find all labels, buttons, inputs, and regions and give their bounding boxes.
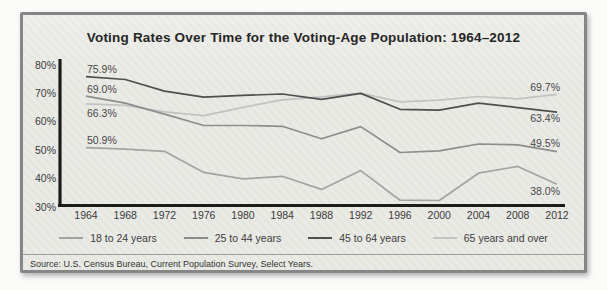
chart-legend: 18 to 24 years25 to 44 years45 to 64 yea…	[23, 230, 584, 246]
legend-label: 25 to 44 years	[215, 232, 282, 244]
legend-item: 65 years and over	[433, 232, 548, 244]
series-start-label: 66.3%	[87, 107, 117, 119]
chart-svg: 80%70%60%50%40%30%1964196819721976198019…	[23, 50, 584, 230]
x-tick-label: 1984	[271, 209, 295, 221]
y-tick-label: 70%	[35, 87, 56, 99]
series-end-label: 69.7%	[530, 81, 560, 93]
legend-line-swatch	[184, 237, 208, 239]
x-tick-label: 2012	[545, 209, 569, 221]
legend-line-swatch	[433, 237, 457, 239]
source-text: Source: U.S. Census Bureau, Current Popu…	[30, 259, 313, 269]
x-tick-label: 1980	[231, 209, 255, 221]
x-tick-label: 2000	[428, 209, 452, 221]
series-start-label: 50.9%	[87, 134, 117, 146]
x-tick-label: 1976	[192, 209, 216, 221]
x-tick-label: 1972	[153, 209, 177, 221]
series-start-label: 69.0%	[87, 83, 117, 95]
source-divider	[23, 254, 584, 255]
y-tick-label: 60%	[35, 115, 56, 127]
x-tick-label: 2004	[467, 209, 491, 221]
y-tick-label: 30%	[35, 201, 56, 213]
series-line-45-to-64-years	[86, 77, 557, 113]
series-line-18-to-24-years	[86, 148, 557, 201]
x-tick-label: 1996	[388, 209, 412, 221]
x-tick-label: 1964	[74, 209, 98, 221]
y-tick-label: 50%	[35, 144, 56, 156]
legend-line-swatch	[308, 237, 332, 239]
legend-item: 25 to 44 years	[184, 232, 282, 244]
x-tick-label: 1992	[349, 209, 373, 221]
series-end-label: 38.0%	[530, 185, 560, 197]
legend-label: 45 to 64 years	[339, 232, 406, 244]
legend-item: 45 to 64 years	[308, 232, 406, 244]
legend-label: 65 years and over	[464, 232, 548, 244]
y-tick-label: 40%	[35, 172, 56, 184]
chart-title: Voting Rates Over Time for the Voting-Ag…	[23, 30, 584, 45]
series-end-label: 63.4%	[530, 112, 560, 124]
legend-item: 18 to 24 years	[59, 232, 157, 244]
x-tick-label: 1968	[114, 209, 138, 221]
chart-card: Voting Rates Over Time for the Voting-Ag…	[20, 12, 587, 273]
y-tick-label: 80%	[35, 59, 56, 71]
series-start-label: 75.9%	[87, 63, 117, 75]
x-tick-label: 1988	[310, 209, 334, 221]
series-end-label: 49.5%	[530, 137, 560, 149]
legend-label: 18 to 24 years	[90, 232, 157, 244]
legend-line-swatch	[59, 237, 83, 239]
x-tick-label: 2008	[506, 209, 530, 221]
